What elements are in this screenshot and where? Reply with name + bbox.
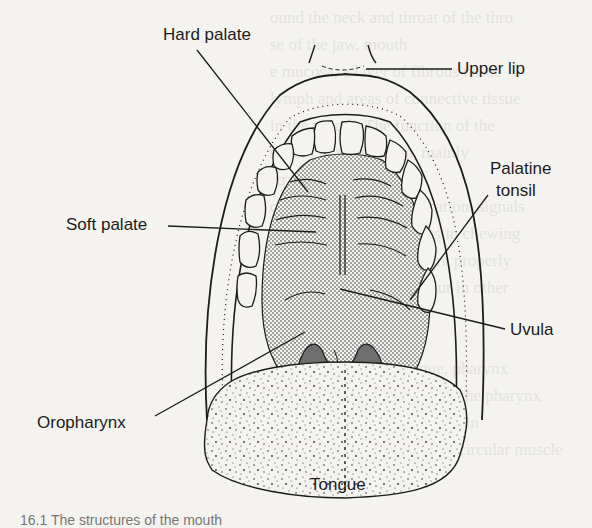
- label-upper-lip: Upper lip: [457, 60, 525, 79]
- leader-hard-palate: [197, 50, 308, 192]
- label-hard-palate: Hard palate: [163, 26, 251, 45]
- label-oropharynx: Oropharynx: [37, 414, 126, 433]
- label-palatine-tonsil-line2: tonsil: [496, 182, 536, 201]
- label-tongue: Tongue: [310, 476, 366, 495]
- figure-caption: 16.1 The structures of the mouth: [20, 512, 222, 528]
- label-uvula: Uvula: [510, 321, 553, 340]
- label-soft-palate: Soft palate: [66, 216, 147, 235]
- label-palatine-tonsil-line1: Palatine: [490, 160, 551, 179]
